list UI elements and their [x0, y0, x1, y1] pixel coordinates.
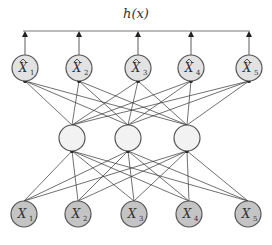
node-label: X [131, 61, 141, 75]
node-label: X [242, 61, 252, 75]
node-subscript: 3 [139, 215, 143, 223]
edge-hidden-output [187, 81, 249, 125]
node-label: X [17, 207, 27, 221]
output-node-1: X1 [12, 55, 38, 81]
edge-hidden-output [79, 81, 128, 125]
node-subscript: 5 [254, 69, 258, 77]
output-node-2: X2 [66, 55, 92, 81]
node-subscript: 2 [83, 215, 87, 223]
hidden-node-2 [115, 125, 141, 151]
output-arrows [25, 34, 249, 55]
input-node-5: X5 [235, 201, 261, 227]
node-label: X [72, 61, 82, 75]
nodes: X1X2X3X4X5X1X2X3X4X5 [11, 55, 262, 227]
edge-hidden-output [79, 81, 187, 125]
output-node-4: X4 [178, 55, 204, 81]
node-subscript: 4 [194, 215, 199, 223]
edge-input-hidden [24, 151, 128, 201]
input-node-1: X1 [11, 201, 37, 227]
input-node-4: X4 [176, 201, 202, 227]
hidden-node-1 [59, 125, 85, 151]
edge-hidden-output [72, 81, 191, 125]
edge-input-hidden [128, 151, 189, 201]
input-node-2: X2 [65, 201, 91, 227]
edge-hidden-output [25, 81, 128, 125]
edge-hidden-output [72, 81, 79, 125]
edge-input-hidden [128, 151, 248, 201]
node-label: X [241, 207, 251, 221]
edge-input-hidden [72, 151, 78, 201]
diagram-title: h(x) [123, 6, 149, 21]
node-label: X [71, 207, 81, 221]
output-node-3: X3 [125, 55, 151, 81]
node-subscript: 5 [253, 215, 257, 223]
node-subscript: 1 [30, 69, 34, 77]
node-subscript: 2 [84, 69, 88, 77]
input-node-3: X3 [121, 201, 147, 227]
edge-hidden-output [128, 81, 191, 125]
edge-input-hidden [187, 151, 248, 201]
node-subscript: 3 [143, 69, 147, 77]
hidden-node-3 [174, 125, 200, 151]
node-label: X [184, 61, 194, 75]
edge-input-hidden [72, 151, 134, 201]
node-label: X [127, 207, 137, 221]
node-subscript: 1 [29, 215, 33, 223]
node-subscript: 4 [196, 69, 201, 77]
edge-hidden-output [128, 81, 249, 125]
edge-input-hidden [72, 151, 248, 201]
node-label: X [18, 61, 28, 75]
node-label: X [182, 207, 192, 221]
autoencoder-diagram: h(x) X1X2X3X4X5X1X2X3X4X5 [0, 0, 272, 245]
edge-hidden-output [72, 81, 249, 125]
output-node-5: X5 [236, 55, 262, 81]
